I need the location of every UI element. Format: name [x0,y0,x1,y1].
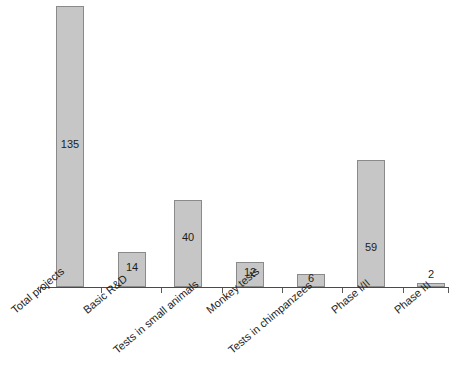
bar-value-label: 135 [56,138,84,150]
bar-chart: 135 14 40 12 6 59 2 Total projects Basic… [0,0,468,380]
bar-value-label: 59 [357,241,385,253]
bar-value-label: 40 [174,231,202,243]
x-axis-tick-labels: Total projects Basic R&D Tests in small … [0,288,468,380]
bar-tests-in-small-animals[interactable] [174,200,202,287]
bar-phase-i-ii[interactable] [357,160,385,287]
plot-area: 135 14 40 12 6 59 2 [0,0,468,288]
bar-value-label: 14 [118,261,146,273]
x-tick-label-tests-in-small-animals: Tests in small animals [111,279,200,356]
bar-value-label: 2 [417,268,445,280]
